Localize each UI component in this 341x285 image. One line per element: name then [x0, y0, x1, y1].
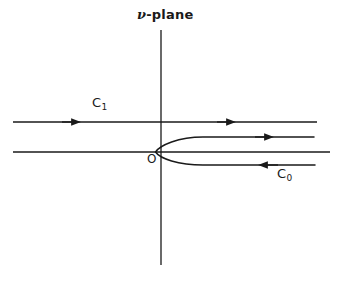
contour-c1-label: C1	[92, 96, 107, 112]
contour-c1-label-subscript: 1	[101, 102, 107, 112]
page-title: ν-plane	[137, 8, 193, 21]
contour-c0-parabola	[156, 137, 316, 165]
contour-c0-label: C0	[277, 167, 292, 183]
origin-label: O	[147, 153, 156, 165]
contour-c1-label-text: C	[92, 95, 101, 110]
contour-c0-label-text: C	[277, 166, 286, 181]
contour-c0-label-subscript: 0	[286, 173, 292, 183]
nu-plane-figure: ν-plane C1 C0 O	[0, 0, 341, 285]
nu-symbol: ν	[137, 7, 146, 22]
plane-title-suffix: -plane	[146, 7, 193, 22]
contour-diagram-svg	[0, 0, 341, 285]
